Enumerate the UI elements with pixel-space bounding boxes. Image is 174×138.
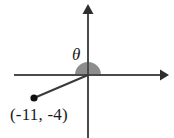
- y-axis-arrowhead-icon: [83, 4, 94, 14]
- point-coordinate-label: (-11, -4): [10, 106, 68, 123]
- plotted-point-marker: [30, 94, 37, 101]
- x-axis-arrowhead-icon: [160, 70, 169, 81]
- theta-angle-label: θ: [72, 46, 80, 63]
- angle-figure: θ (-11, -4): [0, 0, 174, 138]
- terminal-side-ray: [34, 75, 88, 98]
